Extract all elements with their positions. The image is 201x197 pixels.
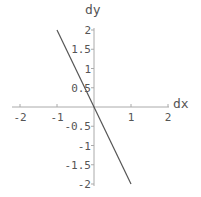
x-tick-label: -2 (13, 111, 26, 124)
y-tick-label: -0.5 (65, 120, 92, 133)
x-tick-label: 2 (165, 111, 172, 124)
x-tick-label: 1 (128, 111, 135, 124)
y-tick-label: 0.5 (71, 82, 91, 95)
y-tick-label: -1.5 (65, 159, 92, 172)
x-tick-label: -1 (50, 111, 63, 124)
x-axis-label: dx (173, 96, 189, 111)
y-tick-label: -1 (78, 140, 91, 153)
y-tick-label: 1 (84, 63, 91, 76)
y-tick-label: 1.5 (71, 43, 91, 56)
y-tick-label: 2 (84, 24, 91, 37)
y-tick-label: -2 (78, 178, 91, 191)
y-axis-label: dy (85, 2, 101, 17)
chart: -2-11221.510.5-0.5-1-1.5-2 dx dy (0, 0, 201, 197)
